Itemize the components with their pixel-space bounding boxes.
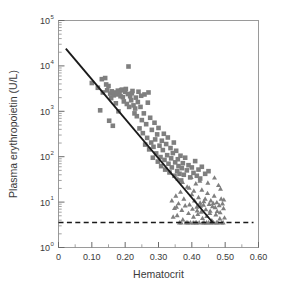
data-point-square <box>135 114 140 119</box>
y-tick-exponent: 5 <box>51 14 55 20</box>
data-point-square <box>149 140 154 145</box>
data-point-square <box>133 106 138 111</box>
data-point-square <box>161 148 166 153</box>
data-point-square <box>150 128 155 133</box>
y-tick-exponent: 3 <box>51 104 55 110</box>
data-point-square <box>124 87 129 92</box>
y-tick-exponent: 0 <box>51 241 55 247</box>
data-point-square <box>153 137 158 142</box>
data-point-square <box>142 92 147 97</box>
data-point-square <box>155 132 160 137</box>
data-point-square <box>136 89 141 94</box>
data-point-square <box>160 138 165 143</box>
data-point-square <box>137 126 142 131</box>
data-point-square <box>130 89 135 94</box>
data-point-square <box>121 95 126 100</box>
data-point-square <box>190 165 195 170</box>
data-point-square <box>152 120 157 125</box>
data-point-square <box>174 148 179 153</box>
data-point-square <box>111 123 116 128</box>
data-point-square <box>193 159 198 164</box>
data-point-square <box>136 100 141 105</box>
data-point-square <box>164 142 169 147</box>
data-point-square <box>200 164 205 169</box>
data-point-square <box>162 131 167 136</box>
data-point-square <box>169 156 174 161</box>
data-point-square <box>157 143 162 148</box>
data-point-square <box>206 169 211 174</box>
data-point-square <box>166 135 171 140</box>
data-point-square <box>177 172 182 177</box>
data-point-square <box>144 122 149 127</box>
scatter-plot: 10010110210310410500.100.200.300.400.500… <box>0 0 289 295</box>
y-tick-label: 10 <box>40 152 50 162</box>
data-point-square <box>140 118 145 123</box>
x-tick-label: 0 <box>56 252 61 262</box>
x-tick-label: 0.50 <box>216 252 234 262</box>
data-point-square <box>141 131 146 136</box>
y-tick-label: 10 <box>40 198 50 208</box>
data-point-square <box>103 76 108 81</box>
figure-container: 10010110210310410500.100.200.300.400.500… <box>0 0 289 295</box>
data-point-square <box>151 155 156 160</box>
data-point-square <box>156 126 161 131</box>
data-point-square <box>181 161 186 166</box>
data-point-square <box>98 108 103 113</box>
data-point-square <box>170 165 175 170</box>
data-point-square <box>126 64 131 69</box>
x-tick-label: 0.30 <box>150 252 168 262</box>
data-point-square <box>185 168 190 173</box>
data-point-square <box>134 95 139 100</box>
data-point-square <box>151 145 156 150</box>
data-point-square <box>148 115 153 120</box>
x-tick-labels: 00.100.200.300.400.500.60 <box>56 252 267 262</box>
data-point-square <box>138 105 143 110</box>
x-tick-label: 0.60 <box>250 252 268 262</box>
y-tick-exponent: 1 <box>51 195 55 201</box>
y-tick-exponent: 2 <box>51 150 55 156</box>
x-tick-label: 0.10 <box>83 252 101 262</box>
x-axis-title: Hematocrit <box>133 268 184 280</box>
data-point-square <box>107 118 112 123</box>
data-point-square <box>180 166 185 171</box>
x-tick-label: 0.40 <box>183 252 201 262</box>
data-point-square <box>129 98 134 103</box>
data-point-square <box>162 158 167 163</box>
data-point-square <box>106 84 111 89</box>
y-axis-title: Plasma erythropoietin (U/L) <box>7 70 19 198</box>
data-point-square <box>142 111 147 116</box>
data-point-square <box>145 136 150 141</box>
data-point-square <box>146 100 151 105</box>
data-point-square <box>168 146 173 151</box>
y-tick-label: 10 <box>40 61 50 71</box>
data-point-square <box>146 90 151 95</box>
x-tick-label: 0.20 <box>116 252 134 262</box>
y-tick-label: 10 <box>40 16 50 26</box>
y-tick-exponent: 4 <box>51 59 55 65</box>
y-tick-labels: 100101102103104105 <box>40 14 55 253</box>
data-point-square <box>127 105 132 110</box>
data-point-square <box>172 140 177 145</box>
data-point-square <box>182 172 187 177</box>
data-point-square <box>165 153 170 158</box>
data-point-square <box>183 155 188 160</box>
y-tick-label: 10 <box>40 243 50 253</box>
data-point-square <box>178 153 183 158</box>
y-tick-label: 10 <box>40 107 50 117</box>
